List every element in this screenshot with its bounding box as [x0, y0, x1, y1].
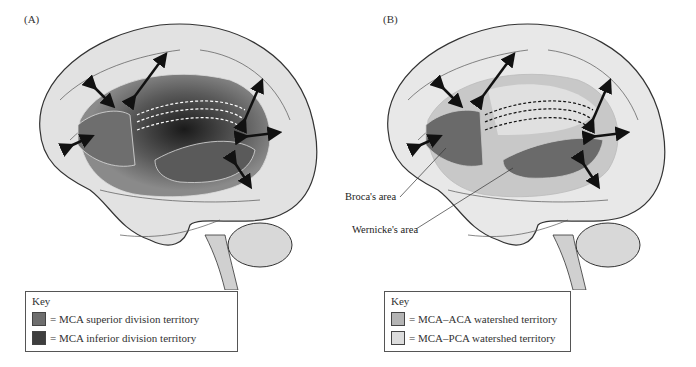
legend-a: Key = MCA superior division territory = … [25, 291, 238, 352]
legend-b: Key = MCA–ACA watershed territory = MCA–… [384, 291, 571, 352]
legend-b-item-mca-pca: = MCA–PCA watershed territory [391, 328, 563, 347]
panel-b-label: (B) [383, 13, 398, 25]
legend-b-title: Key [391, 295, 563, 307]
cerebellum [576, 223, 640, 267]
swatch-inferior-division [32, 331, 46, 345]
legend-a-item-superior: = MCA superior division territory [32, 309, 230, 328]
swatch-mca-aca-watershed [391, 312, 405, 326]
legend-b-item-mca-aca: = MCA–ACA watershed territory [391, 309, 563, 328]
legend-a-item-superior-label: = MCA superior division territory [50, 313, 199, 325]
panel-a: (A) Key = MCA superior division territor… [0, 0, 348, 367]
swatch-mca-pca-watershed [391, 331, 405, 345]
legend-a-item-inferior-label: = MCA inferior division territory [50, 332, 196, 344]
legend-a-title: Key [32, 295, 230, 307]
cerebellum [228, 223, 292, 267]
wernickes-area-label: Wernicke's area [352, 224, 418, 235]
swatch-superior-division [32, 312, 46, 326]
panel-a-label: (A) [24, 13, 39, 25]
panel-b: (B) Broca's area Wernicke's area Key = M… [348, 0, 696, 367]
brain-illustration-a [0, 0, 348, 290]
legend-a-item-inferior: = MCA inferior division territory [32, 328, 230, 347]
brain-illustration-b [348, 0, 696, 290]
legend-b-item-mca-pca-label: = MCA–PCA watershed territory [409, 332, 555, 344]
brocas-area-label: Broca's area [345, 191, 396, 202]
legend-b-item-mca-aca-label: = MCA–ACA watershed territory [409, 313, 557, 325]
